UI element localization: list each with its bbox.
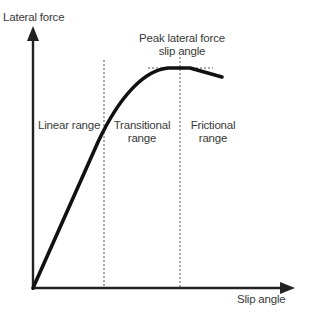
x-axis-label: Slip angle bbox=[237, 293, 286, 306]
peak-label-line2: slip angle bbox=[120, 45, 244, 58]
y-axis-label: Lateral force bbox=[3, 11, 64, 24]
region-transitional-label: Transitional range bbox=[106, 119, 178, 145]
region-frictional-label: Frictional range bbox=[182, 119, 244, 145]
region-frictional-line1: Frictional bbox=[182, 119, 244, 132]
peak-label-line1: Peak lateral force bbox=[120, 32, 244, 45]
region-frictional-line2: range bbox=[182, 132, 244, 145]
region-transitional-line2: range bbox=[106, 132, 178, 145]
region-linear-label: Linear range bbox=[38, 119, 100, 132]
lateral-force-curve bbox=[33, 68, 222, 288]
lateral-force-diagram: Lateral force Slip angle Peak lateral fo… bbox=[0, 0, 316, 320]
y-axis-arrowhead-icon bbox=[27, 26, 39, 41]
peak-label: Peak lateral force slip angle bbox=[120, 32, 244, 58]
region-transitional-line1: Transitional bbox=[106, 119, 178, 132]
